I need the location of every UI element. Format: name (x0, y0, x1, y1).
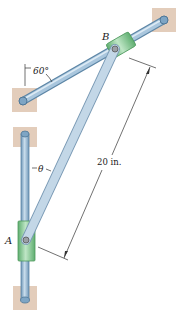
pin-a (23, 237, 29, 243)
length-label: 20 in. (97, 157, 121, 167)
pin-b (112, 46, 118, 52)
angle-theta-label: θ (38, 164, 44, 174)
point-b-label: B (101, 31, 109, 42)
vertical-rod (21, 131, 30, 303)
point-a-label: A (4, 235, 12, 246)
angle-60-label: 60° (33, 66, 49, 76)
mechanism-diagram: 60° θ 20 in. B A (0, 0, 180, 318)
